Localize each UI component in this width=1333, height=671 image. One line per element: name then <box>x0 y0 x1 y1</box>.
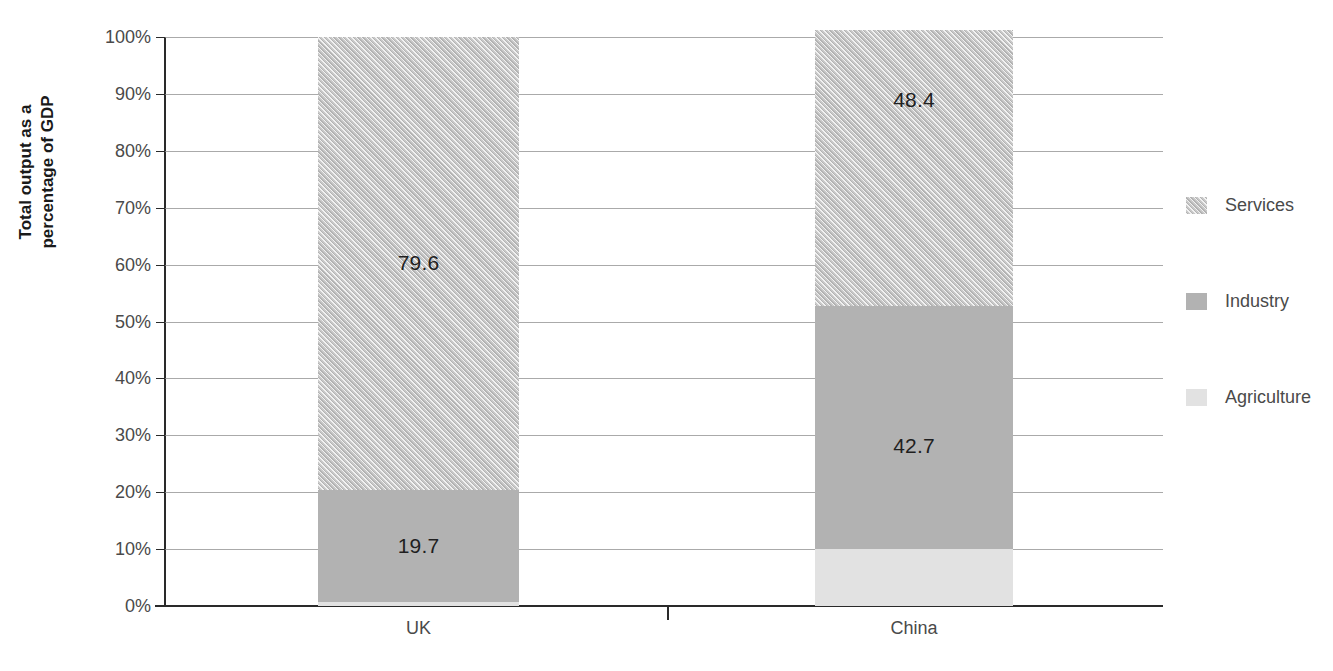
y-axis-tick-90 <box>156 94 165 95</box>
gridline-10 <box>165 549 1163 550</box>
bar-segment-uk-agriculture[interactable] <box>318 602 519 606</box>
bar-segment-china-services[interactable]: 48.4 <box>815 30 1013 305</box>
y-axis-label-70: 70% <box>115 197 151 218</box>
y-axis-label-10: 10% <box>115 539 151 560</box>
bar-label-uk-industry: 19.7 <box>398 534 440 558</box>
y-axis-label-100: 100% <box>105 27 151 48</box>
gridline-80 <box>165 151 1163 152</box>
bar-group-uk[interactable]: 79.6 19.7 <box>318 37 519 606</box>
y-axis-tick-80 <box>156 151 165 152</box>
y-axis-label-60: 60% <box>115 254 151 275</box>
y-axis-tick-70 <box>156 208 165 209</box>
y-axis-title-line-2: percentage of GDP <box>37 95 59 248</box>
y-axis-label-40: 40% <box>115 368 151 389</box>
y-axis-tick-50 <box>156 322 165 323</box>
legend-item-agriculture[interactable]: Agriculture <box>1186 388 1311 406</box>
y-axis-label-20: 20% <box>115 482 151 503</box>
y-axis-tick-10 <box>156 549 165 550</box>
legend-swatch-industry-icon <box>1186 293 1207 310</box>
gridline-90 <box>165 94 1163 95</box>
plot-area: 100% 90% 80% 70% 60% 50% 40% 30% 20% 10%… <box>165 37 1163 606</box>
legend-swatch-agriculture-icon <box>1186 389 1207 406</box>
y-axis-tick-60 <box>156 265 165 266</box>
y-axis-title-line-1: Total output as a <box>15 95 37 248</box>
legend-label-agriculture: Agriculture <box>1225 387 1311 408</box>
gridline-40 <box>165 378 1163 379</box>
bar-label-china-industry: 42.7 <box>893 434 935 458</box>
y-axis-label-50: 50% <box>115 311 151 332</box>
bar-group-china[interactable]: 48.4 42.7 <box>815 37 1013 606</box>
y-axis-label-0: 0% <box>125 596 151 617</box>
bar-segment-china-industry[interactable]: 42.7 <box>815 306 1013 549</box>
legend-swatch-services-icon <box>1186 197 1207 214</box>
y-axis-label-30: 30% <box>115 425 151 446</box>
legend-label-industry: Industry <box>1225 291 1289 312</box>
y-axis-tick-100 <box>156 37 165 38</box>
bar-segment-uk-services-fill[interactable]: 79.6 <box>318 37 519 490</box>
x-axis-category-divider-tick <box>667 606 669 620</box>
legend-item-services[interactable]: Services <box>1186 196 1294 214</box>
y-axis-tick-0 <box>156 606 165 607</box>
legend-label-services: Services <box>1225 195 1294 216</box>
legend-item-industry[interactable]: Industry <box>1186 292 1289 310</box>
gridline-60 <box>165 265 1163 266</box>
bar-segment-china-agriculture[interactable] <box>815 549 1013 606</box>
y-axis-tick-30 <box>156 435 165 436</box>
y-axis-tick-20 <box>156 492 165 493</box>
bar-label-uk-services: 79.6 <box>398 251 440 275</box>
gridline-100 <box>165 37 1163 38</box>
gridline-70 <box>165 208 1163 209</box>
x-axis-category-label-china: China <box>815 618 1013 639</box>
gridline-20 <box>165 492 1163 493</box>
bar-label-china-services: 48.4 <box>893 88 935 112</box>
gridline-30 <box>165 435 1163 436</box>
gridline-50 <box>165 322 1163 323</box>
y-axis-tick-40 <box>156 378 165 379</box>
y-axis-label-80: 80% <box>115 140 151 161</box>
y-axis-label-90: 90% <box>115 83 151 104</box>
y-axis-title: Total output as a percentage of GDP <box>0 0 74 610</box>
bar-segment-uk-industry[interactable]: 19.7 <box>318 490 519 602</box>
x-axis-category-label-uk: UK <box>318 618 519 639</box>
